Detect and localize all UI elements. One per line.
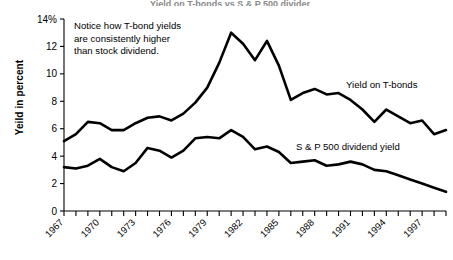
svg-text:1997: 1997 [401,217,424,240]
svg-text:1970: 1970 [78,217,101,240]
svg-text:6: 6 [51,123,57,134]
svg-text:1979: 1979 [186,217,209,240]
series-line-sp500 [64,130,446,192]
svg-text:10: 10 [46,68,58,79]
annotation-line-2: are consistently higher [74,33,210,46]
y-axis-ticks: 02468101214% [37,14,64,217]
svg-text:1973: 1973 [114,217,137,240]
svg-text:4: 4 [51,151,57,162]
svg-text:1982: 1982 [222,217,245,240]
annotation-line-1: Notice how T-bond yields [74,20,210,33]
chart-plot-area: 02468101214% 196719701973197619791982198… [0,0,453,260]
annotation-line-3: than stock dividend. [74,45,210,58]
svg-text:14%: 14% [37,14,57,25]
chart-container: Yield on T-bonds vs S & P 500 dividend y… [0,0,453,260]
x-axis-tick-labels: 1967197019731976197919821985198819911994… [43,217,424,240]
svg-text:1985: 1985 [258,217,281,240]
chart-annotation: Notice how T-bond yields are consistentl… [74,20,210,58]
y-axis-title: Yeild in percent [14,43,25,153]
x-axis-ticks [64,211,446,216]
svg-text:8: 8 [51,96,57,107]
svg-text:0: 0 [51,206,57,217]
series-label-tbond: Yield on T-bonds [346,79,417,90]
svg-text:2: 2 [51,178,57,189]
svg-text:12: 12 [46,41,58,52]
svg-text:1988: 1988 [293,217,316,240]
svg-text:1967: 1967 [43,217,66,240]
chart-title-clipped: Yield on T-bonds vs S & P 500 dividend y… [150,0,310,6]
svg-text:1991: 1991 [329,217,352,240]
svg-text:1994: 1994 [365,217,388,240]
svg-text:1976: 1976 [150,217,173,240]
series-label-sp500: S & P 500 dividend yield [296,141,400,152]
